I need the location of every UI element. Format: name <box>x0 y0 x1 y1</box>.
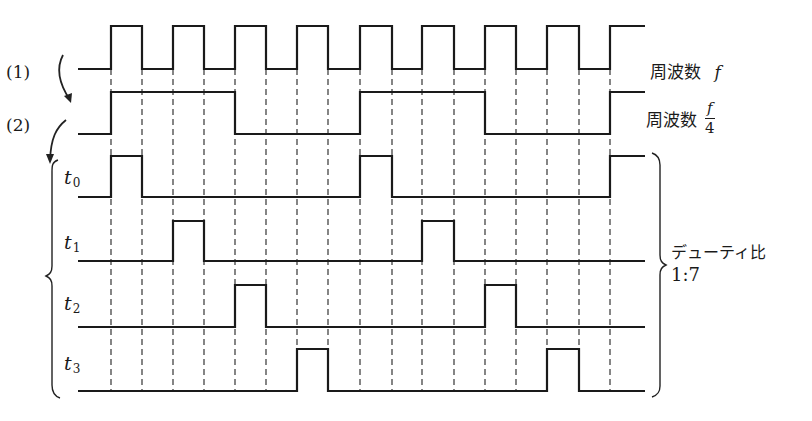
step2-arrowhead-icon <box>46 154 54 164</box>
right-brace <box>652 153 666 397</box>
fraction-denominator: 4 <box>705 119 715 136</box>
waveform-t1 <box>78 221 645 261</box>
fraction-f-over-4: f 4 <box>705 101 715 136</box>
signal-label-t3: t3 <box>64 352 80 376</box>
fraction-numerator: f <box>705 101 715 119</box>
duty-label-text: デューティ比 <box>671 242 766 264</box>
duty-ratio-label: デューティ比 1:7 <box>671 242 766 286</box>
freq-text: 周波数 <box>650 62 701 82</box>
waveform-t0 <box>78 156 645 197</box>
signal-label-t2: t2 <box>64 292 80 316</box>
freq-text: 周波数 <box>646 106 697 131</box>
waveform-clock <box>78 26 645 69</box>
waveform-div4 <box>78 92 645 134</box>
waveform-t3 <box>78 349 645 391</box>
signal-label-frequency-f: 周波数 f <box>650 58 721 83</box>
signal-label-t1: t1 <box>64 231 80 255</box>
duty-ratio-value: 1:7 <box>671 264 766 286</box>
step1-label: (1) <box>6 62 30 82</box>
signal-label-t0: t0 <box>64 166 80 190</box>
signal-waveforms <box>78 26 645 391</box>
waveform-t2 <box>78 285 645 327</box>
left-brace <box>46 160 60 398</box>
f-variable: f <box>714 62 720 82</box>
signal-label-frequency-f-over-4: 周波数 f 4 <box>646 101 715 136</box>
step2-label: (2) <box>6 115 30 135</box>
step1-arrowhead-icon <box>64 93 72 103</box>
step1-arrow-icon <box>59 55 70 100</box>
